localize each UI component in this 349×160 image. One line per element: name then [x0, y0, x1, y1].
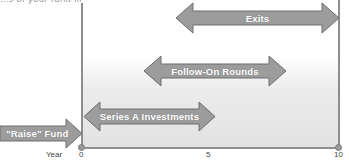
raise-fund-arrow: "Raise" Fund	[0, 118, 82, 149]
series-a-investments-arrow: Series A Investments	[84, 101, 215, 132]
clipped-title: ...s of your fund life	[0, 0, 88, 4]
tick-5: 5	[206, 150, 210, 159]
fund-lifecycle-diagram: ...s of your fund life Exits Follow-On R…	[0, 0, 349, 160]
follow-on-rounds-arrow: Follow-On Rounds	[144, 55, 286, 87]
raise-fund-label: "Raise" Fund	[0, 118, 82, 149]
exits-arrow: Exits	[176, 2, 339, 34]
tick-0: 0	[79, 150, 83, 159]
tick-10: 10	[334, 150, 343, 159]
x-axis-line	[82, 147, 339, 149]
follow-on-rounds-label: Follow-On Rounds	[144, 55, 286, 87]
series-a-investments-label: Series A Investments	[84, 101, 215, 132]
exits-label: Exits	[176, 2, 339, 34]
year-axis-label: Year	[46, 150, 62, 159]
